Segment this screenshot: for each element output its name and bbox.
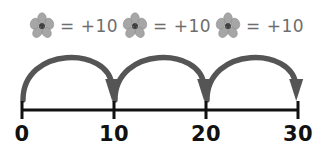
legend-item: = +10 [122,13,211,40]
tick-label: 30 [283,122,313,146]
tick-label: 0 [14,122,29,146]
jump-arrowheads [105,79,303,101]
flower-icon [29,13,55,40]
tick-labels: 0 10 20 30 [14,122,313,146]
tick-label: 10 [99,122,129,146]
jump-arcs [23,58,296,100]
legend-item: = +10 [29,13,118,40]
number-line-diagram: = +10 = +10 = +10 [0,0,318,146]
arrowhead-icon [289,79,303,101]
jump-arc [115,58,204,100]
legend: = +10 = +10 = +10 [29,13,304,40]
diagram-canvas: = +10 = +10 = +10 [0,0,318,146]
legend-item-label: = +10 [153,16,211,36]
legend-item-label: = +10 [246,16,304,36]
tick-label: 20 [191,122,221,146]
legend-item: = +10 [215,13,304,40]
jump-arc [207,58,296,100]
number-line [22,101,298,119]
jump-arc [23,58,112,100]
flower-icon [215,13,241,40]
flower-icon [122,13,148,40]
legend-item-label: = +10 [60,16,118,36]
